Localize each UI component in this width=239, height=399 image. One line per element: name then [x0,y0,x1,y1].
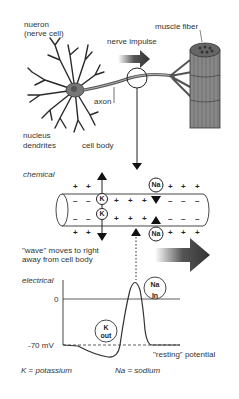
svg-text:–: – [181,214,186,223]
svg-text:–: – [195,214,200,223]
diagram-graphics: ++ +++ ++ +++ –– +++ ––– –– +++ ––– [0,0,239,399]
neuron-label-line1: nueron [24,20,64,29]
wave-direction-arrow-icon [155,238,210,272]
neuron-icon [28,38,104,132]
svg-text:–: – [73,196,78,205]
svg-text:+: + [168,182,173,191]
na-ion-bottom: Na [148,230,164,237]
svg-text:+: + [128,196,133,205]
zero-label: 0 [54,295,58,304]
muscle-fiber-label: muscle fiber [155,22,198,31]
neuron-label-line2: (nerve cell) [24,29,64,38]
svg-text:–: – [181,196,186,205]
svg-text:–: – [168,196,173,205]
neuron-label: nueron (nerve cell) [24,20,64,38]
k-out-label: K out [98,324,114,340]
minus70-label: -70 mV [28,341,54,350]
nerve-impulse-arrow-icon [118,50,150,68]
nucleus-icon [71,86,77,92]
k-out-line2: out [98,332,114,340]
muscle-fiber-icon [190,43,220,128]
legend-potassium: K = potassium [21,366,72,375]
legend-sodium: Na = sodium [115,366,160,375]
k-out-line1: K [98,324,114,332]
svg-text:+: + [181,228,186,237]
svg-text:–: – [195,196,200,205]
na-ion-top: Na [148,181,164,188]
svg-text:–: – [73,214,78,223]
svg-text:+: + [142,196,147,205]
cell-body-label: cell body [82,141,114,150]
svg-text:+: + [181,182,186,191]
svg-text:+: + [86,182,91,191]
resting-potential-label: "resting" potential [153,350,215,359]
svg-text:+: + [195,182,200,191]
svg-text:–: – [86,214,91,223]
svg-text:–: – [86,196,91,205]
svg-text:+: + [195,228,200,237]
k-ion-top: K [97,195,107,202]
na-in-line1: Na [147,281,163,289]
wave-text: "wave" moves to right away from cell bod… [22,246,99,264]
axon-label: axon [94,97,111,106]
chemical-title: chemical [23,170,55,179]
k-ion-bottom: K [97,210,107,217]
svg-text:+: + [114,214,119,223]
svg-text:+: + [142,214,147,223]
svg-text:+: + [73,182,78,191]
svg-text:+: + [73,228,78,237]
nucleus-label: nucleus [23,131,51,140]
na-in-label: Na In [147,281,163,300]
svg-text:+: + [86,228,91,237]
nerve-impulse-label: nerve impulse [107,37,157,46]
electrical-title: electrical [22,276,54,285]
dendrites-label: dendrites [23,141,56,150]
na-in-line2: In [147,292,163,300]
wave-text-line2: away from cell body [22,255,99,264]
svg-text:–: – [168,214,173,223]
svg-text:+: + [168,228,173,237]
wave-text-line1: "wave" moves to right [22,246,99,255]
svg-text:+: + [114,196,119,205]
svg-text:+: + [128,214,133,223]
